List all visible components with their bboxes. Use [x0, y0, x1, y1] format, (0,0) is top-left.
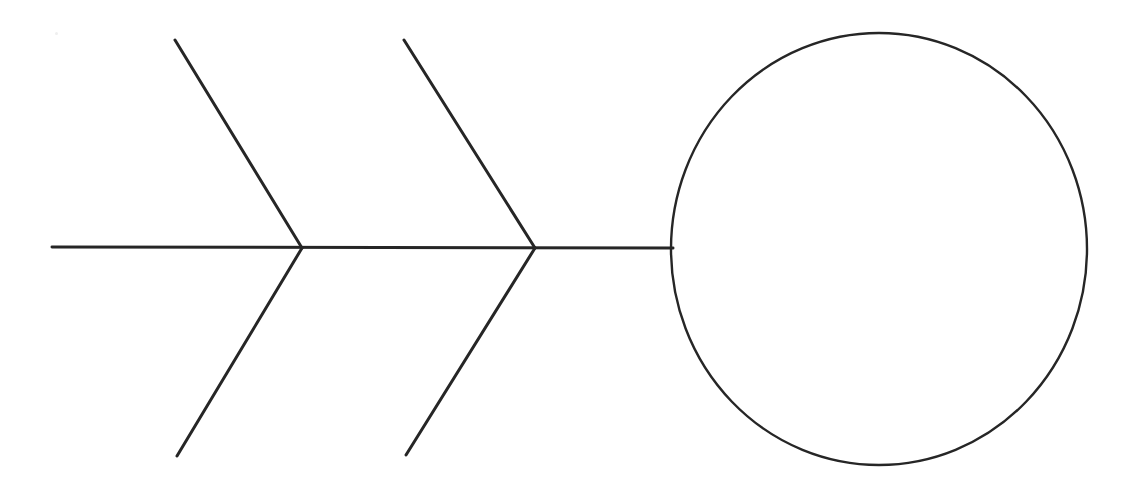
bone-upper-right-line	[404, 40, 535, 248]
spine-line	[52, 247, 673, 248]
effect-head-circle	[671, 33, 1087, 465]
fishbone-diagram-canvas	[0, 0, 1146, 481]
bone-lower-right-line	[406, 248, 535, 455]
fishbone-diagram	[0, 0, 1146, 481]
bone-upper-left-line	[175, 40, 302, 248]
bone-lower-left-line	[177, 248, 302, 456]
